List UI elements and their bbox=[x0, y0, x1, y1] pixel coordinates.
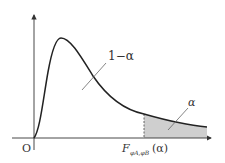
critical-value-label: F φA,φB (α) bbox=[121, 142, 168, 157]
critical-value-symbol: F bbox=[121, 142, 130, 155]
origin-label: O bbox=[22, 142, 31, 155]
critical-value-subscript: φA,φB bbox=[130, 149, 150, 157]
f-distribution-diagram: 1−α α O F φA,φB (α) bbox=[0, 0, 225, 163]
body-leader-line bbox=[82, 63, 106, 90]
critical-value-argument: (α) bbox=[152, 142, 168, 155]
tail-area-label: α bbox=[188, 96, 196, 109]
body-area-label: 1−α bbox=[108, 49, 134, 63]
